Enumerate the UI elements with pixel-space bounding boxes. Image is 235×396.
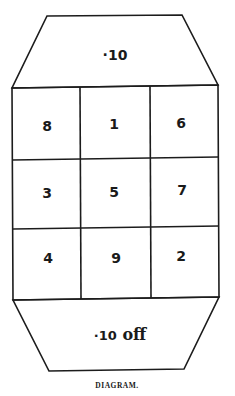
grid-cell-r3-c2: 9 [111, 251, 121, 265]
diagram-caption: DIAGRAM. [95, 381, 138, 390]
bottom-section-suffix: off [122, 325, 146, 344]
grid-cell-r2-c1: 3 [42, 186, 52, 200]
top-section-label: ·10 [103, 48, 128, 62]
grid-cell-r3-c1: 4 [43, 251, 53, 265]
grid-column-divider-2 [150, 86, 151, 298]
grid-cell-r2-c3: 7 [177, 183, 187, 197]
grid-cell-r3-c3: 2 [176, 249, 186, 263]
grid-cell-r1-c1: 8 [42, 119, 52, 133]
grid-column-divider-1 [80, 87, 81, 299]
grid-row-divider-2 [13, 226, 219, 229]
grid-cell-r1-c2: 1 [109, 117, 119, 131]
bottom-section-label: ·10 off [94, 327, 146, 343]
bottom-section-number: ·10 [94, 328, 117, 343]
grid-row-divider-1 [12, 157, 218, 160]
grid-cell-r2-c2: 5 [109, 185, 119, 199]
grid-cell-r1-c3: 6 [176, 116, 186, 130]
